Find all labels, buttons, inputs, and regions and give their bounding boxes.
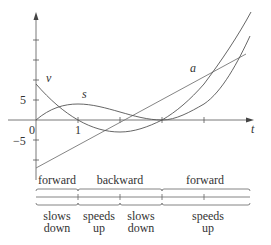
t-axis-label: t — [251, 122, 255, 136]
position-label: s — [82, 87, 87, 101]
velocity-label: v — [46, 71, 52, 85]
acceleration-label: a — [190, 61, 196, 75]
direction-forward-2: forward — [186, 173, 224, 187]
direction-backward: backward — [97, 173, 144, 187]
velocity-curve — [36, 12, 251, 132]
origin-label: 0 — [29, 123, 35, 137]
t-tick-label-1: 1 — [75, 123, 81, 137]
y-tick-label-neg5: −5 — [13, 134, 26, 148]
speed-label-3-line2: down — [128, 221, 155, 235]
speed-label-4-line2: up — [202, 221, 214, 235]
position-curve — [36, 36, 250, 120]
speed-label-1-line2: down — [44, 221, 71, 235]
vertical-axis-arrow-icon — [34, 12, 39, 20]
y-tick-label-5: 5 — [20, 93, 26, 107]
speed-label-2-line2: up — [93, 221, 105, 235]
direction-forward-1: forward — [38, 173, 76, 187]
interval-brackets — [36, 189, 250, 205]
motion-diagram: 5 0 −5 1 t v s a forward backward forwar… — [0, 0, 271, 245]
acceleration-curve — [36, 54, 246, 168]
